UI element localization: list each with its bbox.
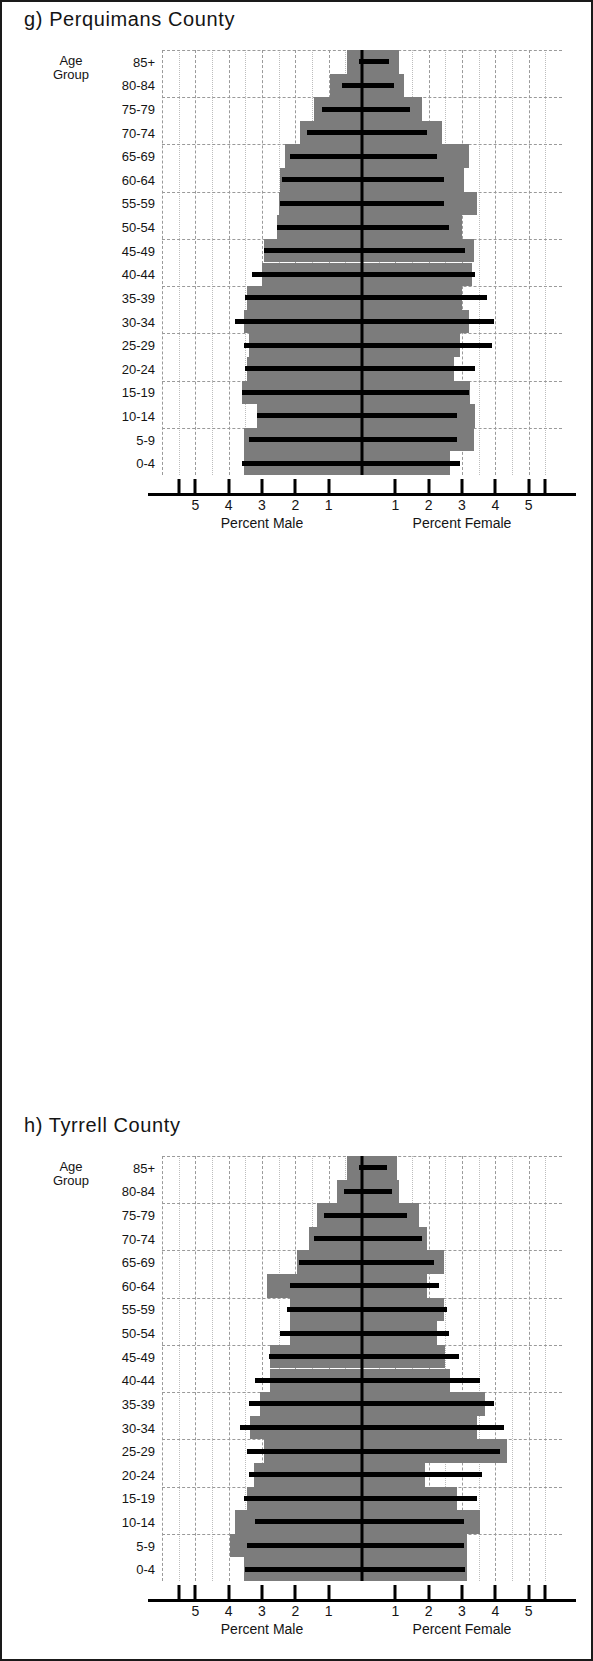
x-axis-tick xyxy=(461,1585,464,1599)
age-group-tick-labels: 85+80-8475-7970-7465-6960-6455-5950-5445… xyxy=(97,50,159,475)
reference-line xyxy=(307,130,427,135)
x-axis-caption-male: Percent Male xyxy=(221,1621,303,1637)
reference-line xyxy=(245,1567,465,1572)
x-axis-tick-label: 5 xyxy=(191,1603,199,1619)
age-group-tick-labels: 85+80-8475-7970-7465-6960-6455-5950-5445… xyxy=(97,1156,159,1581)
age-group-label-line2: Group xyxy=(36,68,106,82)
age-tick-label: 20-24 xyxy=(122,361,155,376)
center-axis-line xyxy=(361,1156,364,1581)
x-axis-tick xyxy=(327,479,330,493)
age-group-label-line1: Age xyxy=(36,1160,106,1174)
x-axis-tick xyxy=(494,479,497,493)
age-tick-label: 5-9 xyxy=(136,1538,155,1553)
x-axis-caption-male: Percent Male xyxy=(221,515,303,531)
age-tick-label: 25-29 xyxy=(122,1444,155,1459)
age-tick-label: 40-44 xyxy=(122,267,155,282)
x-axis-tick xyxy=(194,479,197,493)
age-tick-label: 35-39 xyxy=(122,1396,155,1411)
x-axis-tick-label: 1 xyxy=(325,1603,333,1619)
x-axis-tick xyxy=(394,1585,397,1599)
x-axis-tick xyxy=(261,479,264,493)
x-axis-tick xyxy=(327,1585,330,1599)
x-axis-tick-label: 3 xyxy=(258,497,266,513)
x-axis-tick-label: 4 xyxy=(225,497,233,513)
x-axis-tick xyxy=(461,479,464,493)
x-axis-tick-label: 3 xyxy=(458,497,466,513)
x-axis-tick-label: 4 xyxy=(491,497,499,513)
reference-line xyxy=(324,1213,407,1218)
x-axis-tick-label: 2 xyxy=(291,497,299,513)
plot-canvas xyxy=(162,50,562,475)
reference-line xyxy=(269,1354,459,1359)
figure-population-pyramids: g) Perquimans CountyAgeGroup85+80-8475-7… xyxy=(0,0,593,1661)
x-axis-tick xyxy=(494,1585,497,1599)
age-tick-label: 80-84 xyxy=(122,78,155,93)
plot-area xyxy=(162,50,562,475)
reference-line xyxy=(290,154,437,159)
reference-line xyxy=(249,437,457,442)
plot-area xyxy=(162,1156,562,1581)
age-tick-label: 30-34 xyxy=(122,314,155,329)
x-axis-tick xyxy=(527,479,530,493)
reference-line xyxy=(249,1472,482,1477)
age-group-axis-label: AgeGroup xyxy=(36,54,106,82)
age-tick-label: 85+ xyxy=(133,1160,155,1175)
age-group-label-line2: Group xyxy=(36,1174,106,1188)
age-tick-label: 70-74 xyxy=(122,1231,155,1246)
x-axis: 5432112345Percent MalePercent Female xyxy=(162,1581,562,1641)
reference-line xyxy=(247,1449,500,1454)
x-axis-tick xyxy=(261,1585,264,1599)
x-axis-tick-label: 4 xyxy=(491,1603,499,1619)
x-axis-tick xyxy=(427,479,430,493)
age-tick-label: 75-79 xyxy=(122,1208,155,1223)
x-axis-tick-label: 1 xyxy=(391,1603,399,1619)
x-axis-tick xyxy=(544,479,547,493)
x-axis-tick-label: 4 xyxy=(225,1603,233,1619)
reference-line xyxy=(255,1519,463,1524)
x-axis-tick-label: 1 xyxy=(391,497,399,513)
age-tick-label: 25-29 xyxy=(122,338,155,353)
age-tick-label: 50-54 xyxy=(122,220,155,235)
age-tick-label: 5-9 xyxy=(136,432,155,447)
reference-line xyxy=(245,295,487,300)
reference-line xyxy=(280,1331,448,1336)
age-tick-label: 50-54 xyxy=(122,1326,155,1341)
panel-tyrrell: h) Tyrrell CountyAgeGroup85+80-8475-7970… xyxy=(2,1108,591,1661)
reference-line xyxy=(314,1236,422,1241)
age-tick-label: 10-14 xyxy=(122,1514,155,1529)
age-tick-label: 35-39 xyxy=(122,290,155,305)
panel-title: g) Perquimans County xyxy=(24,8,235,31)
x-axis-tick-label: 5 xyxy=(525,1603,533,1619)
age-group-label-line1: Age xyxy=(36,54,106,68)
x-axis-tick-label: 2 xyxy=(425,1603,433,1619)
reference-line xyxy=(247,1543,464,1548)
x-axis-caption-female: Percent Female xyxy=(413,1621,512,1637)
age-tick-label: 70-74 xyxy=(122,125,155,140)
age-tick-label: 20-24 xyxy=(122,1467,155,1482)
x-axis-tick xyxy=(294,479,297,493)
x-axis-tick-label: 3 xyxy=(458,1603,466,1619)
x-axis-tick xyxy=(227,1585,230,1599)
age-tick-label: 0-4 xyxy=(136,456,155,471)
reference-line xyxy=(344,1189,392,1194)
reference-line xyxy=(240,1425,503,1430)
reference-line xyxy=(242,390,469,395)
x-axis-tick xyxy=(544,1585,547,1599)
x-axis-tick xyxy=(194,1585,197,1599)
age-tick-label: 80-84 xyxy=(122,1184,155,1199)
x-axis-tick-label: 5 xyxy=(525,497,533,513)
age-tick-label: 60-64 xyxy=(122,1278,155,1293)
age-tick-label: 30-34 xyxy=(122,1420,155,1435)
x-axis-tick xyxy=(394,479,397,493)
age-tick-label: 15-19 xyxy=(122,1491,155,1506)
x-axis-tick-label: 2 xyxy=(291,1603,299,1619)
age-tick-label: 85+ xyxy=(133,54,155,69)
x-axis-tick xyxy=(227,479,230,493)
age-tick-label: 65-69 xyxy=(122,149,155,164)
x-axis-tick xyxy=(177,1585,180,1599)
x-axis-tick xyxy=(177,479,180,493)
reference-line xyxy=(244,343,492,348)
x-axis-line xyxy=(148,493,576,496)
x-axis-caption-female: Percent Female xyxy=(413,515,512,531)
reference-line xyxy=(342,83,394,88)
